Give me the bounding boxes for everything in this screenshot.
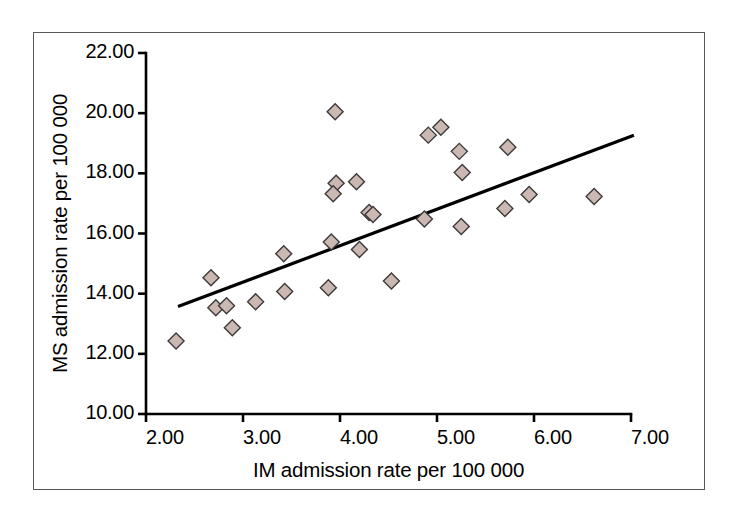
data-point-marker xyxy=(497,201,513,217)
data-point-marker xyxy=(433,119,449,135)
data-point-marker xyxy=(224,320,240,336)
data-point-marker xyxy=(521,186,537,202)
data-point-marker xyxy=(383,273,399,289)
trend-line xyxy=(178,135,634,306)
x-axis-title: IM admission rate per 100 000 xyxy=(253,458,524,482)
data-point-marker xyxy=(453,219,469,235)
y-tick-label: 20.00 xyxy=(85,100,134,123)
y-axis-title: MS admission rate per 100 000 xyxy=(48,94,72,373)
y-tick-label: 14.00 xyxy=(85,281,134,304)
y-tick-label: 10.00 xyxy=(85,401,134,424)
data-point-marker xyxy=(248,294,264,310)
data-point-marker xyxy=(451,143,467,159)
data-point-marker xyxy=(327,104,343,120)
data-point-marker xyxy=(500,139,516,155)
data-point-marker xyxy=(277,284,293,300)
scatter-plot xyxy=(34,33,706,491)
y-tick-label: 16.00 xyxy=(85,221,134,244)
data-point-marker xyxy=(586,188,602,204)
data-point-marker xyxy=(348,174,364,190)
y-tick-label: 22.00 xyxy=(85,40,134,63)
data-point-marker xyxy=(276,246,292,262)
data-point-marker xyxy=(351,241,367,257)
y-tick-label: 18.00 xyxy=(85,160,134,183)
data-point-marker xyxy=(320,280,336,296)
data-point-marker xyxy=(168,333,184,349)
y-tick-label: 12.00 xyxy=(85,341,134,364)
data-point-marker xyxy=(454,164,470,180)
data-point-marker xyxy=(420,127,436,143)
data-point-marker xyxy=(203,270,219,286)
figure-container: 10.0012.0014.0016.0018.0020.0022.002.003… xyxy=(0,0,734,507)
figure-frame: 10.0012.0014.0016.0018.0020.0022.002.003… xyxy=(33,32,705,490)
